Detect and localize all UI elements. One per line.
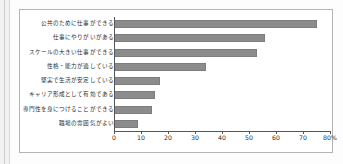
bar bbox=[114, 49, 257, 57]
bar-track bbox=[114, 60, 330, 74]
category-label: 公共のために仕事ができる bbox=[41, 21, 114, 27]
bar bbox=[114, 63, 206, 71]
category-label: 専門性を身につけることができる bbox=[23, 107, 115, 113]
bar-track bbox=[114, 74, 330, 88]
bar bbox=[114, 106, 152, 114]
bar-row: 堅実で生活が安定している bbox=[20, 74, 334, 88]
bar-row: スケールの大きい仕事ができる bbox=[20, 46, 334, 60]
x-axis-tick-label: 40 bbox=[218, 135, 226, 141]
bar bbox=[114, 91, 155, 99]
category-label: 仕事にやりがいがある bbox=[53, 36, 114, 42]
page-edge-line bbox=[4, 0, 5, 164]
x-axis-tick-label: 0 bbox=[112, 135, 116, 141]
x-axis-tick-label: 70 bbox=[299, 135, 307, 141]
x-axis-tick-label: 30 bbox=[191, 135, 199, 141]
bar-track bbox=[114, 103, 330, 117]
bar-row: 性格・能力が適している bbox=[20, 60, 334, 74]
x-axis-tick-label: 20 bbox=[164, 135, 172, 141]
bar-track bbox=[114, 31, 330, 45]
plot-area: 公共のために仕事ができる仕事にやりがいがあるスケールの大きい仕事ができる性格・能… bbox=[20, 10, 334, 154]
x-axis-tick-label: 50 bbox=[245, 135, 253, 141]
value-axis-baseline bbox=[114, 17, 115, 131]
x-axis-tick-label: 10 bbox=[137, 135, 145, 141]
bar-track bbox=[114, 117, 330, 131]
category-label: スケールの大きい仕事ができる bbox=[29, 50, 114, 56]
bar-row: キャリア形成として有効である bbox=[20, 88, 334, 102]
x-axis-tick-label: 80% bbox=[323, 135, 337, 141]
chart-frame: 公共のために仕事ができる仕事にやりがいがあるスケールの大きい仕事ができる性格・能… bbox=[19, 9, 333, 153]
bar-row: 仕事にやりがいがある bbox=[20, 31, 334, 45]
category-label: 職場の雰囲気がよい bbox=[59, 121, 114, 127]
chart-page: 公共のために仕事ができる仕事にやりがいがあるスケールの大きい仕事ができる性格・能… bbox=[0, 0, 343, 164]
bar-rows: 公共のために仕事ができる仕事にやりがいがあるスケールの大きい仕事ができる性格・能… bbox=[20, 17, 334, 131]
bar-track bbox=[114, 88, 330, 102]
bar-row: 専門性を身につけることができる bbox=[20, 103, 334, 117]
x-axis: 01020304050607080% bbox=[114, 131, 330, 151]
page-edge-artifact bbox=[0, 0, 10, 164]
bar bbox=[114, 77, 160, 85]
bar-row: 公共のために仕事ができる bbox=[20, 17, 334, 31]
category-label: 性格・能力が適している bbox=[47, 64, 114, 70]
bar bbox=[114, 120, 138, 128]
bar bbox=[114, 34, 265, 42]
bar-track bbox=[114, 46, 330, 60]
bar-row: 職場の雰囲気がよい bbox=[20, 117, 334, 131]
category-label: 堅実で生活が安定している bbox=[41, 78, 114, 84]
bar-track bbox=[114, 17, 330, 31]
x-axis-tick-label: 60 bbox=[272, 135, 280, 141]
category-label: キャリア形成として有効である bbox=[29, 93, 114, 99]
bar bbox=[114, 20, 317, 28]
